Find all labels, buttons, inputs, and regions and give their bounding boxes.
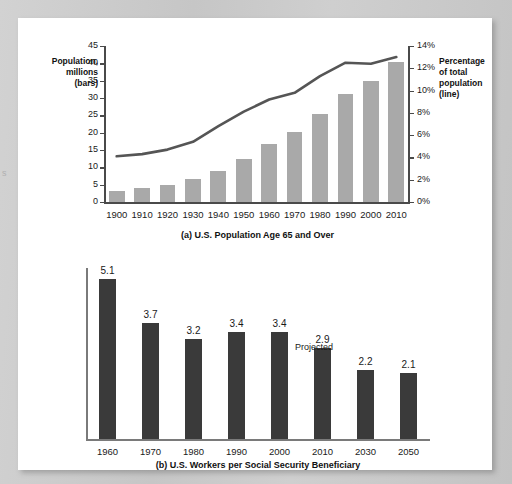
right-tick-label: 6% — [417, 129, 430, 139]
bar-value-label: 2.1 — [389, 359, 429, 370]
right-tick-label: 12% — [417, 62, 435, 72]
right-tick-mark — [410, 135, 414, 136]
bar — [271, 332, 288, 439]
left-tick-label: 25 — [70, 109, 98, 119]
chart-b-caption: (b) U.S. Workers per Social Security Ben… — [86, 460, 430, 470]
right-tick-mark — [410, 157, 414, 158]
left-tick-label: 10 — [70, 161, 98, 171]
x-tick-label: 1970 — [129, 446, 173, 457]
left-tick-label: 0 — [70, 196, 98, 206]
chart-b-y-axis-line — [86, 268, 88, 440]
right-tick-mark — [410, 91, 414, 92]
bar-value-label: 3.2 — [174, 325, 214, 336]
bar-value-label: 3.7 — [131, 309, 171, 320]
bar — [357, 370, 374, 439]
x-tick-label: 2010 — [301, 446, 345, 457]
figure-panel: Population, millions (bars) Percentage o… — [18, 18, 492, 470]
bar-value-label: 2.2 — [346, 356, 386, 367]
bar — [142, 323, 159, 439]
left-tick-label: 20 — [70, 127, 98, 137]
bar — [185, 339, 202, 439]
right-tick-label: 14% — [417, 40, 435, 50]
bar-value-label: 3.4 — [217, 318, 257, 329]
x-tick-label: 1990 — [215, 446, 259, 457]
left-tick-label: 30 — [70, 92, 98, 102]
left-tick-label: 35 — [70, 75, 98, 85]
right-tick-mark — [410, 202, 414, 203]
chart-b-x-axis-line — [86, 439, 430, 441]
line-series-percentage — [104, 46, 410, 204]
chart-workers-per-beneficiary: 5.13.73.23.43.42.92.22.1 196019701980199… — [18, 250, 492, 470]
bar-value-label: 3.4 — [260, 318, 300, 329]
right-tick-mark — [410, 46, 414, 47]
right-tick-label: 10% — [417, 85, 435, 95]
right-tick-mark — [410, 113, 414, 114]
right-tick-label: 8% — [417, 107, 430, 117]
x-tick-label: 2050 — [387, 446, 431, 457]
bar — [314, 348, 331, 439]
page-edge-text-fragment: s — [2, 168, 7, 178]
x-tick-label: 1960 — [86, 446, 130, 457]
right-tick-label: 4% — [417, 151, 430, 161]
left-tick-label: 5 — [70, 179, 98, 189]
bar — [228, 332, 245, 439]
x-tick-label: 2000 — [258, 446, 302, 457]
left-tick-label: 45 — [70, 40, 98, 50]
chart-a-caption: (a) U.S. Population Age 65 and Over — [105, 230, 410, 240]
chart-population-age-65-and-over: Population, millions (bars) Percentage o… — [18, 18, 492, 248]
left-tick-label: 15 — [70, 144, 98, 154]
bar — [400, 373, 417, 439]
bar-value-label: 5.1 — [88, 265, 128, 276]
left-tick-label: 40 — [70, 57, 98, 67]
right-tick-mark — [410, 68, 414, 69]
projected-annotation: Projected — [295, 342, 333, 352]
right-tick-label: 2% — [417, 174, 430, 184]
bar — [99, 279, 116, 439]
right-axis-title: Percentage of total population (line) — [439, 56, 499, 100]
right-tick-mark — [410, 180, 414, 181]
x-tick-label: 2030 — [344, 446, 388, 457]
x-tick-label: 2010 — [376, 209, 416, 220]
x-tick-label: 1980 — [172, 446, 216, 457]
right-tick-label: 0% — [417, 196, 430, 206]
